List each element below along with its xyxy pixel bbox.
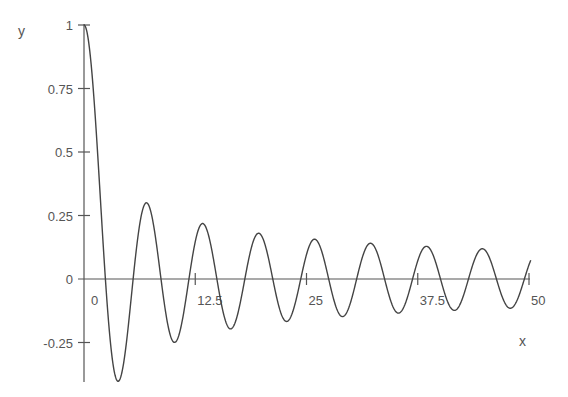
- y-tick-label: 0.5: [55, 145, 73, 160]
- y-tick-label: -0.25: [43, 336, 73, 351]
- y-tick-label: 1: [66, 18, 73, 33]
- x-ticks: 012.52537.550: [91, 273, 545, 308]
- x-tick-label: 25: [309, 293, 323, 308]
- x-tick-label: 37.5: [420, 293, 445, 308]
- y-tick-label: 0.75: [48, 82, 73, 97]
- x-tick-label: 0: [91, 293, 98, 308]
- y-axis-title: y: [18, 23, 25, 39]
- x-tick-label: 12.5: [197, 293, 222, 308]
- x-axis-title: x: [519, 333, 526, 349]
- y-ticks: 10.750.50.250-0.25: [43, 18, 90, 351]
- x-tick-label: 50: [531, 293, 545, 308]
- data-series-line: [84, 25, 531, 381]
- y-tick-label: 0: [66, 272, 73, 287]
- y-tick-label: 0.25: [48, 209, 73, 224]
- line-chart: 10.750.50.250-0.25 012.52537.550 y x: [0, 0, 568, 397]
